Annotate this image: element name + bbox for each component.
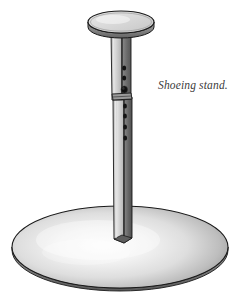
figure-caption: Shoeing stand. [158,78,246,92]
lower-tube-icon [113,97,132,243]
top-plate-disc-icon [88,11,154,38]
shoeing-stand-illustration [0,0,251,305]
telescoping-collar-icon [112,93,132,100]
figure-page: Shoeing stand. [0,0,251,305]
locking-pin-hole-icon [121,86,128,93]
